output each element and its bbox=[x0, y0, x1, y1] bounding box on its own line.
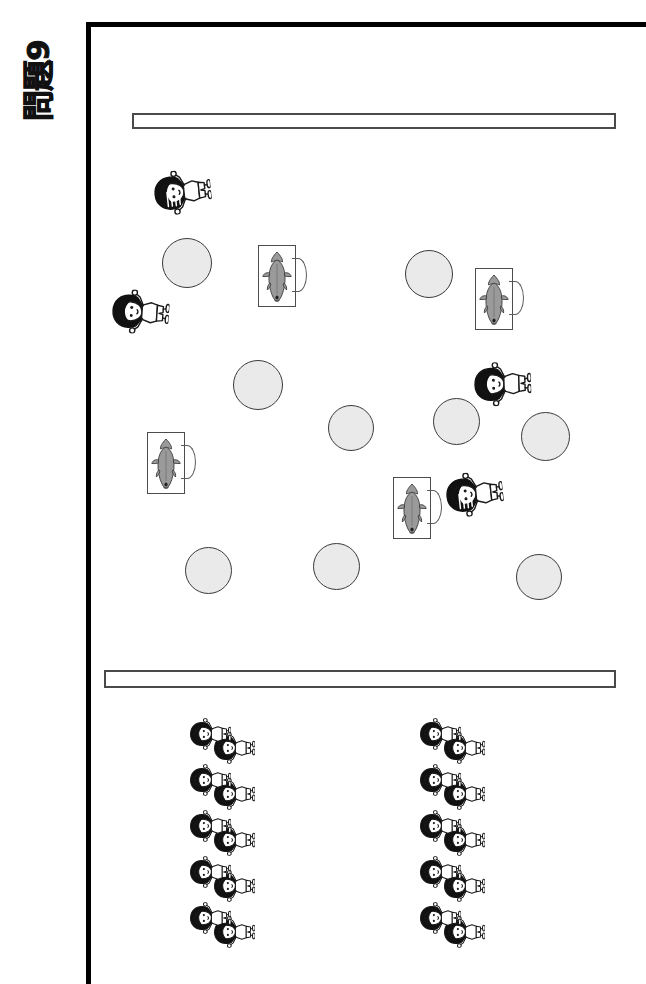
child-figure-icon bbox=[419, 902, 461, 934]
child-figure-icon bbox=[419, 764, 461, 796]
worksheet-page: 問題9 bbox=[0, 0, 646, 984]
cluster-child bbox=[189, 856, 231, 888]
problem-number-label: 問題9 bbox=[13, 16, 58, 146]
child-figure-icon bbox=[443, 469, 505, 519]
page-frame-left-rule bbox=[86, 22, 91, 984]
circle-6[interactable] bbox=[521, 412, 570, 461]
kid-3[interactable] bbox=[472, 361, 532, 407]
child-figure-icon bbox=[189, 764, 231, 796]
cluster-child bbox=[189, 902, 231, 934]
child-figure-icon bbox=[151, 167, 213, 217]
circle-9[interactable] bbox=[516, 554, 562, 600]
cluster-child bbox=[419, 856, 461, 888]
child-figure-icon bbox=[189, 902, 231, 934]
scattered-objects-field bbox=[0, 0, 646, 984]
answer-banner-top[interactable] bbox=[132, 113, 616, 129]
mug-1[interactable] bbox=[258, 245, 304, 307]
child-figure-icon bbox=[189, 810, 231, 842]
circle-3[interactable] bbox=[233, 360, 283, 410]
circle-4[interactable] bbox=[328, 405, 374, 451]
mug-handle bbox=[427, 490, 442, 524]
fish-icon bbox=[479, 273, 509, 325]
circle-8[interactable] bbox=[313, 543, 360, 590]
fish-icon bbox=[262, 250, 292, 302]
fish-icon bbox=[151, 437, 181, 489]
child-figure-icon bbox=[419, 718, 461, 750]
child-figure-icon bbox=[419, 810, 461, 842]
mug-handle bbox=[181, 445, 196, 479]
mug-3[interactable] bbox=[147, 432, 193, 494]
page-frame-top-rule bbox=[86, 22, 646, 27]
mug-4[interactable] bbox=[393, 477, 439, 539]
circle-1[interactable] bbox=[162, 238, 212, 288]
kid-4[interactable] bbox=[443, 469, 505, 519]
answer-banner-bottom[interactable] bbox=[104, 670, 616, 688]
circle-7[interactable] bbox=[185, 547, 232, 594]
child-figure-icon bbox=[189, 856, 231, 888]
child-figure-icon bbox=[472, 361, 532, 407]
cluster-child bbox=[189, 764, 231, 796]
cluster-child bbox=[189, 718, 231, 750]
mug-handle bbox=[509, 281, 524, 315]
mug-2[interactable] bbox=[475, 268, 521, 330]
fish-icon bbox=[397, 482, 427, 534]
cluster-child bbox=[419, 718, 461, 750]
child-figure-icon bbox=[419, 856, 461, 888]
cluster-child bbox=[419, 810, 461, 842]
circle-2[interactable] bbox=[405, 250, 453, 298]
child-figure-icon bbox=[189, 718, 231, 750]
child-figure-icon bbox=[110, 288, 171, 336]
cluster-child bbox=[419, 764, 461, 796]
cluster-child bbox=[419, 902, 461, 934]
kid-1[interactable] bbox=[151, 167, 213, 217]
mug-handle bbox=[292, 258, 307, 292]
kid-2[interactable] bbox=[110, 288, 171, 336]
cluster-child bbox=[189, 810, 231, 842]
